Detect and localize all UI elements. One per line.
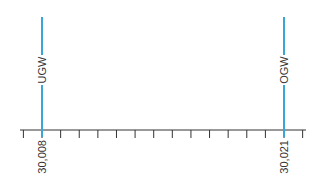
ugw-label: UGW <box>36 56 48 84</box>
ogw-value-label: 30,021 <box>278 140 290 174</box>
ugw-value-label: 30,008 <box>36 140 48 174</box>
marker-ugw: UGW 30,008 <box>36 17 48 174</box>
axis-ticks <box>23 130 302 138</box>
tolerance-scale: UGW 30,008 OGW 30,021 <box>0 0 321 193</box>
marker-ogw: OGW 30,021 <box>278 17 290 174</box>
ogw-label: OGW <box>278 56 290 84</box>
